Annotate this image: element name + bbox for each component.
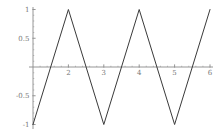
x-tick-label: 3 [102, 69, 106, 77]
x-tick-label: 4 [137, 69, 142, 77]
y-tick-label: -1 [23, 121, 30, 129]
y-tick-label: 0.5 [18, 35, 29, 43]
x-tick-label: 2 [66, 69, 70, 77]
triangle-wave-plot: 2345610.5-0.5-1 [0, 0, 220, 136]
x-tick-label: 5 [172, 69, 176, 77]
plot-canvas: 2345610.5-0.5-1 [0, 0, 220, 136]
y-tick-label: 1 [25, 6, 29, 14]
x-tick-label: 6 [208, 69, 213, 77]
y-tick-label: -0.5 [16, 92, 30, 100]
